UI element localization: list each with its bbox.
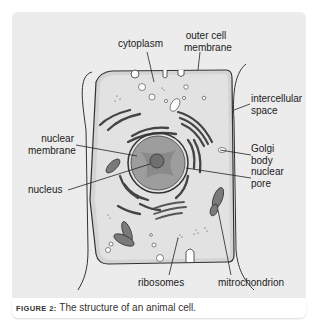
label-golgi-body-line2: body <box>251 155 274 167</box>
label-intercellular-space-line1: intercellular <box>251 93 302 105</box>
label-golgi-body-line1: Golgi <box>251 143 274 155</box>
vesicle-exocytosis <box>131 70 139 78</box>
label-outer-cell-membrane-line2: membrane <box>184 42 228 54</box>
label-outer-cell-membrane: outer cell membrane <box>184 30 228 53</box>
label-nuclear-membrane-line2: membrane <box>28 145 74 157</box>
membrane-pit <box>186 249 194 262</box>
figure-number: FIGURE 2: <box>16 304 57 313</box>
label-nuclear-membrane: nuclear membrane <box>28 133 74 156</box>
label-mitochondrion: mitrochondrion <box>218 277 284 289</box>
membrane-pit <box>163 70 167 78</box>
label-ribosomes: ribosomes <box>138 277 184 289</box>
label-nuclear-pore: nuclear pore <box>251 166 284 189</box>
membrane-pit <box>178 70 184 77</box>
label-golgi-body: Golgi body <box>251 143 274 166</box>
label-cytoplasm: cytoplasm <box>118 38 163 50</box>
neighbour-cell-left-outline <box>78 72 92 290</box>
label-intercellular-space-line2: space <box>251 105 302 117</box>
label-nuclear-pore-line1: nuclear <box>251 166 284 178</box>
nucleolus <box>150 154 164 168</box>
label-outer-cell-membrane-line1: outer cell <box>184 30 228 42</box>
label-intercellular-space: intercellular space <box>251 93 302 116</box>
label-nucleus: nucleus <box>28 184 62 196</box>
label-nuclear-pore-line2: pore <box>251 178 284 190</box>
figure-title: The structure of an animal cell. <box>59 302 196 313</box>
label-nuclear-membrane-line1: nuclear <box>28 133 74 145</box>
figure-caption: FIGURE 2: The structure of an animal cel… <box>16 302 196 313</box>
